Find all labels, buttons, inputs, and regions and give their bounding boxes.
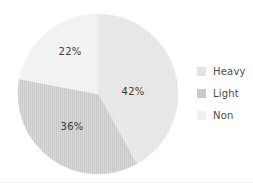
legend-item-non[interactable]: Non [197, 104, 253, 126]
figure-bottom-rule [0, 182, 253, 183]
chart-legend: Heavy Light Non [197, 60, 253, 126]
pie-label-light: 36% [61, 121, 84, 132]
pie-plot-area: 42% 36% 22% [0, 0, 190, 192]
legend-item-heavy[interactable]: Heavy [197, 60, 253, 82]
pie-chart-figure: 42% 36% 22% Heavy Light Non [0, 0, 253, 192]
legend-swatch-non [197, 111, 206, 120]
legend-item-light[interactable]: Light [197, 82, 253, 104]
legend-label-heavy: Heavy [213, 66, 246, 77]
legend-label-non: Non [213, 110, 234, 121]
legend-label-light: Light [213, 88, 239, 99]
pie-slices [18, 14, 178, 174]
legend-swatch-light [197, 89, 206, 98]
legend-swatch-heavy [197, 67, 206, 76]
pie-label-heavy: 42% [122, 86, 145, 97]
pie-svg [0, 0, 190, 192]
pie-label-non: 22% [59, 46, 82, 57]
